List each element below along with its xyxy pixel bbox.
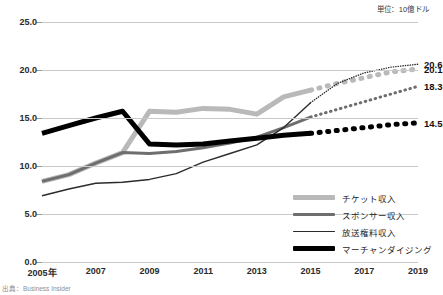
series-line-actual [42, 111, 311, 145]
x-axis-label: 2017 [354, 266, 374, 276]
x-axis-label: 2007 [86, 266, 106, 276]
y-axis-label: 20.0 [19, 65, 37, 75]
gridline [42, 70, 418, 71]
legend-label: 放送権料収入 [342, 226, 396, 238]
y-axis-label: 25.0 [19, 17, 37, 27]
legend-label: チケット収入 [342, 192, 396, 204]
legend-swatch-icon [292, 231, 336, 232]
y-axis-label: 10.0 [19, 161, 37, 171]
legend-item[interactable]: マーチャンダイジング [292, 240, 430, 257]
source-note: 出典：Business Insider [2, 283, 71, 293]
y-axis-label: 15.0 [19, 113, 37, 123]
legend-item[interactable]: スポンサー収入 [292, 206, 430, 223]
x-axis-label: 2013 [247, 266, 267, 276]
gridline [42, 166, 418, 167]
chart-legend: チケット収入スポンサー収入放送権料収入マーチャンダイジング [292, 189, 430, 257]
legend-swatch-icon [292, 195, 336, 200]
x-axis-label: 2005年 [27, 266, 56, 279]
series-end-value-label: 18.3 [424, 81, 443, 92]
series-line-forecast [311, 69, 418, 90]
legend-label: マーチャンダイジング [342, 243, 432, 255]
legend-swatch-icon [292, 246, 336, 251]
unit-note: 単位：10億ドル [377, 3, 429, 14]
series-end-value-label: 14.5 [424, 117, 443, 128]
x-axis-label: 2019 [408, 266, 428, 276]
legend-label: スポンサー収入 [342, 209, 405, 221]
x-axis-label: 2009 [139, 266, 159, 276]
gridline [42, 118, 418, 119]
series-line-actual [42, 103, 311, 196]
series-end-value-label: 20.6 [424, 59, 443, 70]
series-line-actual [42, 117, 311, 181]
x-axis-label: 2011 [193, 266, 213, 276]
x-axis-label: 2015 [301, 266, 321, 276]
legend-item[interactable]: 放送権料収入 [292, 223, 430, 240]
series-line-forecast [311, 123, 418, 134]
legend-swatch-icon [292, 213, 336, 216]
y-axis-label: 5.0 [24, 209, 37, 219]
legend-item[interactable]: チケット収入 [292, 189, 430, 206]
gridline [42, 262, 418, 263]
gridline [42, 22, 418, 23]
